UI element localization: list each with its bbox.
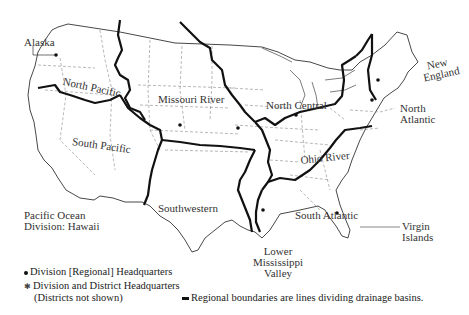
label-alaska: Alaska — [24, 37, 55, 48]
legend-text: Regional boundaries are lines dividing d… — [191, 292, 423, 303]
label-line: Islands — [402, 232, 433, 243]
label-pacific-ocean: Pacific Ocean Division: Hawaii — [24, 210, 99, 232]
regional-boundaries — [38, 20, 376, 232]
legend-note: (Districts not shown) — [24, 292, 180, 303]
legend-division-district-hq: ✱Division and District Headquarters (Dis… — [24, 280, 180, 303]
label-missouri-river: Missouri River — [158, 94, 224, 105]
hq-dots — [54, 53, 380, 215]
label-southwestern: Southwestern — [158, 203, 218, 214]
label-south-atlantic: South Atlantic — [295, 210, 358, 221]
label-virgin-islands: Virgin Islands — [402, 221, 433, 243]
label-line: Valley — [248, 268, 308, 279]
legend-text: Division [Regional] Headquarters — [30, 266, 172, 277]
legend-division-hq: Division [Regional] Headquarters — [24, 266, 172, 277]
label-north-central: North Central — [266, 100, 327, 111]
label-lower-mississippi-valley: Lower Mississippi Valley — [248, 246, 308, 279]
label-line: Atlantic — [400, 114, 435, 125]
district-hq-star-icon: ✱ — [24, 281, 31, 292]
state-lines — [38, 30, 395, 210]
boundary-line-icon — [182, 297, 189, 300]
legend-text: Division and District Headquarters — [33, 280, 180, 291]
label-north-atlantic: North Atlantic — [400, 103, 435, 125]
hq-dot-icon — [24, 271, 28, 275]
label-line: Division: Hawaii — [24, 221, 99, 232]
legend-boundaries: Regional boundaries are lines dividing d… — [182, 292, 423, 303]
